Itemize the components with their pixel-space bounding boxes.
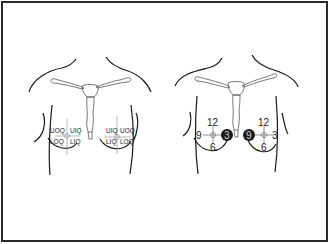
- label-right-loq: LOQ: [50, 138, 64, 146]
- right-arm-line: [34, 113, 44, 142]
- label-left-6: 6: [261, 142, 267, 153]
- label-left-liq: LIQ: [106, 138, 116, 146]
- label-left-9: 9: [246, 130, 252, 141]
- label-right-9: 9: [196, 130, 202, 141]
- label-right-3: 3: [224, 130, 230, 141]
- label-right-12: 12: [207, 117, 219, 128]
- left-shoulder-outline: [106, 57, 151, 92]
- right-shoulder-outline: [175, 58, 222, 86]
- label-left-uiq: UIQ: [106, 127, 118, 135]
- label-left-loq: LOQ: [120, 138, 134, 146]
- chest-diagrams: UOQ UIQ LOQ LIQ UIQ UOQ LIQ LOQ: [0, 0, 329, 244]
- label-left-uoq: UOQ: [120, 127, 135, 135]
- quadrant-panel: [29, 57, 151, 175]
- right-shoulder-outline: [29, 59, 76, 92]
- label-right-uiq: UIQ: [70, 127, 82, 135]
- label-left-3: 3: [272, 130, 278, 141]
- left-arm-line: [282, 113, 288, 134]
- label-left-12: 12: [258, 117, 270, 128]
- clock-panel: [175, 55, 298, 174]
- label-right-uoq: UOQ: [50, 127, 65, 135]
- right-arm-line: [183, 112, 191, 136]
- label-right-liq: LIQ: [70, 138, 80, 146]
- label-right-6: 6: [210, 142, 216, 153]
